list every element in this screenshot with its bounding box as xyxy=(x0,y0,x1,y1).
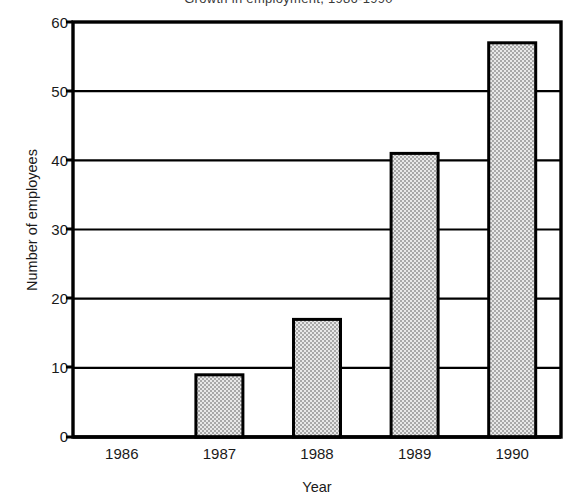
bar-1989[interactable] xyxy=(489,43,536,437)
plot-area xyxy=(0,0,577,503)
bar-1988[interactable] xyxy=(391,153,438,437)
bar-1987[interactable] xyxy=(294,319,341,437)
bars xyxy=(196,43,536,437)
bar-1986[interactable] xyxy=(196,375,243,437)
bar-chart-figure: Growth in employment, 1986-1990 Number o… xyxy=(0,0,577,503)
